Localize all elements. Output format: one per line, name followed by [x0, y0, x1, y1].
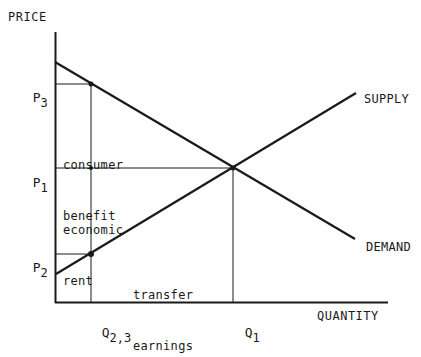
transfer-earnings-line-2: earnings: [133, 338, 193, 355]
supply-label: SUPPLY: [364, 93, 409, 105]
economic-rent-line-1: economic: [63, 222, 123, 239]
price-label-p3-sub: 3: [40, 96, 47, 110]
economic-rent-line-2: rent: [63, 273, 123, 290]
price-label-p2-sub: 2: [40, 266, 47, 280]
consumer-benefit-line-1: consumer: [63, 157, 123, 174]
quantity-label-q1: Q1: [229, 313, 260, 339]
transfer-earnings-line-1: transfer: [133, 287, 193, 304]
equilibrium-point: [231, 166, 236, 171]
price-label-p1-sub: 1: [40, 181, 47, 195]
price-label-p3: P3: [17, 78, 48, 104]
transfer-earnings-label: transfer earnings: [133, 253, 193, 357]
price-label-p2: P2: [17, 248, 48, 274]
point-p3-q23: [89, 82, 94, 87]
quantity-label-q1-sub: 1: [252, 331, 259, 345]
price-label-p1: P1: [17, 163, 48, 189]
economic-rent-label: economic rent: [63, 188, 123, 307]
y-axis-title: PRICE: [8, 11, 47, 23]
quantity-label-q23: Q2,3: [86, 313, 131, 339]
demand-label: DEMAND: [366, 241, 411, 253]
x-axis-title: QUANTITY: [317, 310, 379, 322]
quantity-label-q23-sub: 2,3: [109, 331, 131, 345]
